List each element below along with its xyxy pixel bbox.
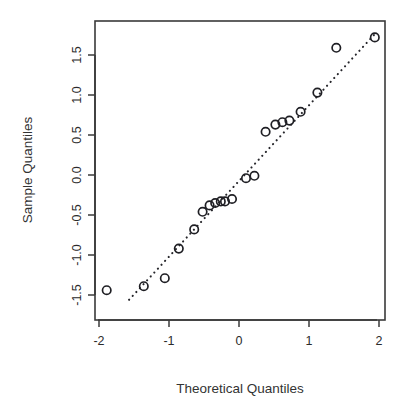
y-tick-label: 0.5 bbox=[70, 126, 84, 143]
y-tick-label: -0.5 bbox=[70, 204, 84, 226]
x-axis: -2-1012 bbox=[93, 320, 382, 348]
y-tick-label: 1.5 bbox=[70, 46, 84, 63]
y-tick-label: 1.0 bbox=[70, 86, 84, 103]
x-tick-label: 0 bbox=[236, 334, 243, 348]
qq-plot-canvas: -1.5-1.0-0.50.00.51.01.5 -2-1012 Theoret… bbox=[0, 0, 405, 415]
y-axis-tick-marks bbox=[88, 55, 95, 295]
x-tick-label: 2 bbox=[376, 334, 383, 348]
x-tick-label: -2 bbox=[93, 334, 104, 348]
y-tick-label: -1.5 bbox=[70, 284, 84, 306]
x-tick-label: -1 bbox=[163, 334, 174, 348]
y-tick-label: -1.0 bbox=[70, 244, 84, 266]
x-axis-tick-marks bbox=[99, 320, 379, 327]
plot-panel-background bbox=[95, 21, 385, 320]
qq-plot-figure: -1.5-1.0-0.50.00.51.01.5 -2-1012 Theoret… bbox=[0, 0, 405, 415]
x-tick-label: 1 bbox=[306, 334, 313, 348]
y-tick-label: 0.0 bbox=[70, 166, 84, 183]
y-axis-title: Sample Quantiles bbox=[20, 116, 35, 223]
y-axis-tick-labels: -1.5-1.0-0.50.00.51.01.5 bbox=[70, 46, 84, 306]
y-axis: -1.5-1.0-0.50.00.51.01.5 bbox=[70, 46, 95, 306]
x-axis-title: Theoretical Quantiles bbox=[176, 381, 304, 396]
x-axis-tick-labels: -2-1012 bbox=[93, 334, 382, 348]
